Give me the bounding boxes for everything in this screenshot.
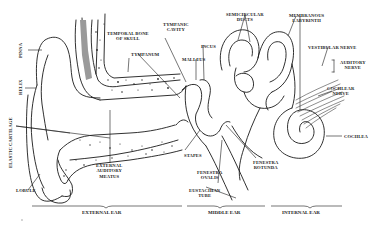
label-fenestra-rotunda: FENESTRA ROTUNDA <box>253 160 278 171</box>
label-vestibular-nerve: VESTIBULAR NERVE <box>308 45 357 50</box>
incus-outline <box>200 80 212 118</box>
label-cochlear-nerve-line2: NERVE <box>327 91 354 96</box>
section-internal-ear: INTERNAL EAR <box>282 210 320 215</box>
label-eustachian-tube: EUSTACHIAN TUBE <box>189 188 220 199</box>
label-elastic-cartilage: ELASTIC CARTILAGE <box>8 117 13 168</box>
label-semicircular-ducts-line2: DUCTS <box>226 17 264 22</box>
label-membranous-labyrinth-line2: LABYRINTH <box>289 18 324 23</box>
label-cochlear-nerve: COCHLEAR NERVE <box>327 86 354 97</box>
ear-anatomy-diagram <box>0 0 374 225</box>
label-external-auditory-meatus: EXTERNAL AUDITORY MEATUS <box>96 163 122 179</box>
label-cochlea: COCHLEA <box>344 134 368 139</box>
cochlea-spiral <box>274 108 325 158</box>
label-temporal-bone-line2: OF SKULL <box>107 36 149 41</box>
label-malleus: MALLEUS <box>182 57 205 62</box>
section-external-ear: EXTERNAL EAR <box>82 210 121 215</box>
label-incus: INCUS <box>201 44 216 49</box>
label-fenestra-ovalis-line2: OVALIS <box>197 175 222 180</box>
label-fenestra-ovalis: FENESTRA OVALIS <box>197 170 222 181</box>
label-tympanic-cavity-line2: CAVITY <box>163 27 189 32</box>
section-middle-ear: MIDDLE EAR <box>208 210 240 215</box>
external-ear-bracket <box>32 206 182 208</box>
label-tympanum: TYMPANUM <box>131 52 159 57</box>
ear-canal-outline <box>60 125 175 150</box>
label-stapes: STAPES <box>184 153 202 158</box>
label-semicircular-ducts: SEMICIRCULAR DUCTS <box>226 12 264 23</box>
label-auditory-nerve-line2: NERVE <box>340 65 366 70</box>
label-tympanic-cavity: TYMPANIC CAVITY <box>163 22 189 33</box>
label-temporal-bone: TEMPORAL BONE OF SKULL <box>107 31 149 42</box>
temporal-bone-shading <box>80 20 92 80</box>
label-membranous-labyrinth: MEMBRANOUS LABYRINTH <box>289 13 324 24</box>
label-pinna: PINNA <box>18 43 23 58</box>
label-lobule: LOBULE <box>16 188 36 193</box>
label-auditory-nerve: AUDITORY NERVE <box>340 60 366 71</box>
stapes-outline <box>204 121 230 136</box>
label-eam-line3: MEATUS <box>96 174 122 179</box>
semicircular-canals <box>220 30 259 72</box>
label-eustachian-tube-line2: TUBE <box>189 193 220 198</box>
middle-ear-bracket <box>187 206 265 208</box>
label-fenestra-rotunda-line2: ROTUNDA <box>253 165 278 170</box>
internal-ear-bracket <box>271 206 342 208</box>
label-helix: HELIX <box>18 80 23 95</box>
